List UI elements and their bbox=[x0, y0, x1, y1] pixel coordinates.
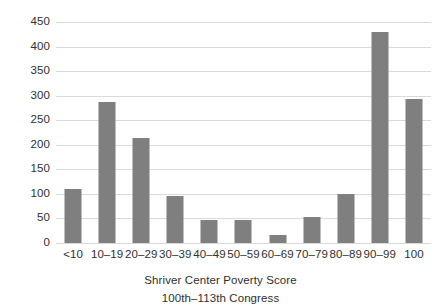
bar-slot bbox=[295, 22, 329, 243]
x-tick-label: 40–49 bbox=[193, 248, 225, 261]
bar bbox=[405, 99, 422, 243]
bar-slot bbox=[397, 22, 431, 243]
x-tick-label: 20–29 bbox=[125, 248, 157, 261]
y-tick-label: 300 bbox=[0, 90, 50, 102]
bar-slot bbox=[56, 22, 90, 243]
bar bbox=[133, 138, 150, 243]
x-tick-label: <10 bbox=[63, 248, 83, 261]
y-tick-label: 150 bbox=[0, 164, 50, 176]
y-tick-label: 450 bbox=[0, 16, 50, 28]
gridline bbox=[56, 243, 431, 244]
bar-slot bbox=[124, 22, 158, 243]
y-tick-label: 250 bbox=[0, 114, 50, 126]
bar bbox=[371, 32, 388, 243]
bar-slot bbox=[192, 22, 226, 243]
y-tick-label: 400 bbox=[0, 41, 50, 53]
bar bbox=[167, 196, 184, 243]
bar-chart: 050100150200250300350400450 <1010–1920–2… bbox=[0, 0, 441, 306]
bar-slot bbox=[261, 22, 295, 243]
y-axis: 050100150200250300350400450 bbox=[0, 22, 50, 243]
y-tick-label: 50 bbox=[0, 213, 50, 225]
bar-slot bbox=[363, 22, 397, 243]
bar bbox=[235, 220, 252, 243]
bar bbox=[337, 194, 354, 243]
y-tick-label: 200 bbox=[0, 139, 50, 151]
bar-series bbox=[56, 22, 431, 243]
x-tick-label: 70–79 bbox=[295, 248, 327, 261]
x-tick-label: 60–69 bbox=[261, 248, 293, 261]
bar-slot bbox=[90, 22, 124, 243]
y-tick-label: 100 bbox=[0, 188, 50, 200]
x-axis: <1010–1920–2930–3940–4950–5960–6970–7980… bbox=[56, 248, 431, 264]
x-tick-label: 80–89 bbox=[330, 248, 362, 261]
x-tick-label: 50–59 bbox=[227, 248, 259, 261]
bar bbox=[303, 217, 320, 243]
bar-slot bbox=[329, 22, 363, 243]
bar-slot bbox=[226, 22, 260, 243]
bar-slot bbox=[158, 22, 192, 243]
x-tick-label: 100 bbox=[404, 248, 424, 261]
x-tick-label: 10–19 bbox=[91, 248, 123, 261]
y-tick-label: 0 bbox=[0, 237, 50, 249]
bar bbox=[269, 235, 286, 243]
bar bbox=[99, 102, 116, 243]
x-tick-label: 90–99 bbox=[364, 248, 396, 261]
x-tick-label: 30–39 bbox=[159, 248, 191, 261]
bar bbox=[201, 220, 218, 243]
x-axis-title: Shriver Center Poverty Score bbox=[0, 274, 441, 287]
bar bbox=[65, 189, 82, 243]
y-tick-label: 350 bbox=[0, 65, 50, 77]
x-axis-subtitle: 100th–113th Congress bbox=[0, 292, 441, 305]
